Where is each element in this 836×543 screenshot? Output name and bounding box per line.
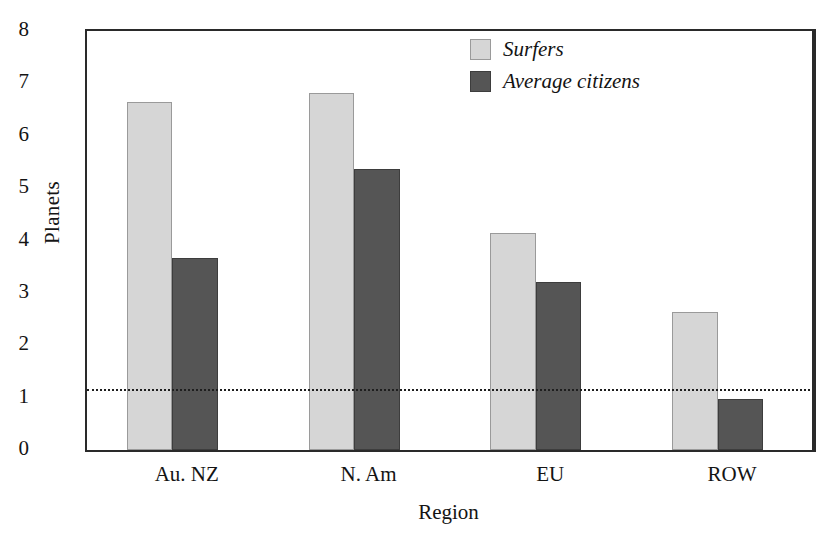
y-tick-label: 3 xyxy=(0,280,29,301)
bar-chart: Planets 8 7 6 5 4 3 2 1 0 xyxy=(0,0,836,543)
bar-group-row xyxy=(632,31,814,450)
x-axis-tick-labels: Au. NZ N. Am EU ROW xyxy=(85,462,812,487)
y-tick-label: 0 xyxy=(0,438,29,459)
bar-average-citizens-eu xyxy=(536,282,581,450)
legend-label-surfers: Surfers xyxy=(503,37,564,62)
y-tick-label: 2 xyxy=(0,333,29,354)
y-tick-label: 5 xyxy=(0,176,29,197)
plot-area xyxy=(85,29,816,452)
y-tick-label: 4 xyxy=(0,228,29,249)
bar-average-citizens-n-am xyxy=(354,169,399,450)
bar-group-n-am xyxy=(269,31,451,450)
y-tick-label: 8 xyxy=(0,19,29,40)
legend: Surfers Average citizens xyxy=(470,36,640,94)
y-tick-label: 6 xyxy=(0,123,29,144)
legend-label-average-citizens: Average citizens xyxy=(503,69,640,94)
x-tick-label-eu: EU xyxy=(449,462,631,487)
bar-surfers-au-nz xyxy=(127,102,172,450)
x-tick-label-au-nz: Au. NZ xyxy=(85,462,267,487)
legend-item-average-citizens: Average citizens xyxy=(470,68,640,94)
x-axis-title: Region xyxy=(85,500,812,525)
bar-group-au-nz xyxy=(87,31,269,450)
plot-inner xyxy=(87,31,814,450)
plot-right-edge xyxy=(812,31,814,450)
legend-swatch-average-citizens-icon xyxy=(470,71,491,92)
y-tick-label: 7 xyxy=(0,71,29,92)
bar-surfers-n-am xyxy=(309,93,354,450)
reference-line-dotted xyxy=(87,389,814,391)
x-tick-label-n-am: N. Am xyxy=(267,462,449,487)
bar-average-citizens-au-nz xyxy=(172,258,217,450)
y-axis-tick-labels: 8 7 6 5 4 3 2 1 0 xyxy=(0,0,85,543)
bar-groups xyxy=(87,31,814,450)
legend-item-surfers: Surfers xyxy=(470,36,640,62)
x-tick-label-row: ROW xyxy=(630,462,812,487)
bar-average-citizens-row xyxy=(718,399,763,450)
legend-swatch-surfers-icon xyxy=(470,39,491,60)
y-tick-label: 1 xyxy=(0,385,29,406)
bar-surfers-eu xyxy=(490,233,535,450)
bar-surfers-row xyxy=(672,312,717,450)
